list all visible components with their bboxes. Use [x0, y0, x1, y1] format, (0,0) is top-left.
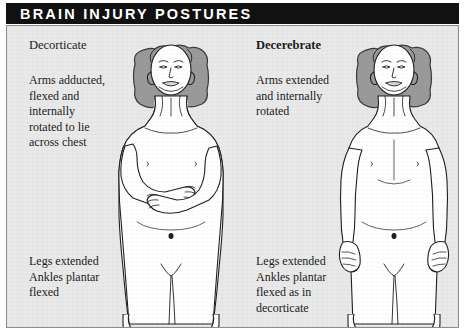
title-bar: BRAIN INJURY POSTURES [6, 3, 459, 24]
panel-heading-decerebrate: Decerebrate [256, 38, 321, 53]
foot-right-plantarflexed [197, 314, 219, 328]
eye-left [383, 66, 390, 69]
decerebrate-posture-figure [338, 30, 450, 326]
decorticate-posture-figure [115, 30, 227, 326]
navel [392, 233, 397, 239]
eye-right [175, 66, 182, 69]
panel-decerebrate: Decerebrate Arms extended and internally… [234, 26, 459, 327]
foot-left-plantarflexed [123, 314, 145, 328]
panel-heading-decorticate: Decorticate [29, 38, 87, 53]
decerebrate-legs-feet [338, 314, 450, 328]
hand-right-rotated [428, 242, 449, 273]
panel-decorticate: Decorticate Arms adducted, flexed and in… [7, 26, 234, 327]
navel [169, 233, 174, 239]
foot-left-plantarflexed [348, 314, 370, 328]
brain-injury-postures-figure: BRAIN INJURY POSTURES Decorticate Arms a… [0, 0, 465, 332]
page-title: BRAIN INJURY POSTURES [20, 6, 252, 21]
torso [346, 96, 442, 324]
hand-left-rotated [339, 242, 360, 273]
illustration-frame: Decorticate Arms adducted, flexed and in… [6, 25, 459, 328]
decorticate-legs-feet [115, 314, 227, 328]
foot-right-plantarflexed [418, 314, 440, 328]
eye-right [398, 66, 405, 69]
eye-left [160, 66, 167, 69]
